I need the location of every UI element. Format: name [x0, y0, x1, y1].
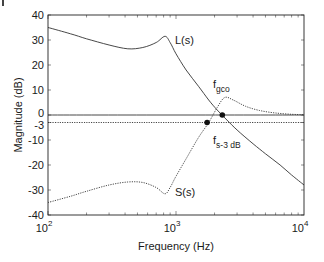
markers	[204, 112, 225, 125]
y-tick-label: 40	[32, 9, 44, 21]
y-tick-label: 0	[38, 107, 44, 119]
y-tick-label: -40	[28, 209, 44, 221]
x-tick-labels: 102103104	[36, 219, 309, 234]
y-tick-label: 20	[32, 59, 44, 71]
marker-f-gco	[220, 112, 226, 118]
x-tick-label: 103	[164, 219, 181, 234]
y-tick-label: 10	[32, 84, 44, 96]
S-curve-label: S(s)	[175, 186, 195, 198]
series-l-s-	[48, 28, 304, 186]
curves	[48, 28, 304, 203]
x-tick-label: 104	[292, 219, 309, 234]
L-curve-label: L(s)	[175, 34, 194, 46]
fs3db-label: fs-3 dB	[213, 134, 241, 150]
y-tick-labels: 403020100-3-10-20-30-40	[28, 9, 44, 221]
bode-magnitude-chart: 403020100-3-10-20-30-40 102103104 Freque…	[0, 0, 324, 262]
fgco-label: fgco	[213, 78, 230, 94]
y-tick-label: 30	[32, 34, 44, 46]
y-axis-title: Magnitude (dB)	[12, 77, 24, 152]
y-tick-label: -3	[34, 119, 44, 131]
y-tick-label: -30	[28, 184, 44, 196]
x-tick-label: 102	[36, 219, 53, 234]
y-tick-label: -10	[28, 134, 44, 146]
marker-f-s-3-db	[204, 120, 210, 126]
y-tick-label: -20	[28, 159, 44, 171]
x-axis-title: Frequency (Hz)	[138, 240, 214, 252]
